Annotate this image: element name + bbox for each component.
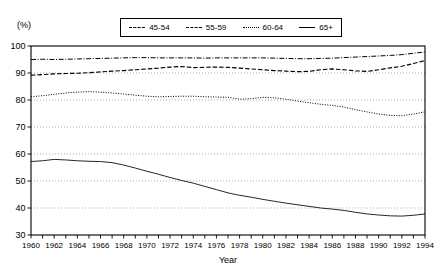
svg-text:1972: 1972 [161,241,179,250]
svg-text:1988: 1988 [347,241,365,250]
svg-text:60: 60 [15,149,25,159]
svg-text:1964: 1964 [68,241,86,250]
svg-text:40: 40 [15,203,25,213]
svg-text:90: 90 [15,68,25,78]
svg-text:1970: 1970 [138,241,156,250]
x-ticks-group: 1960196219641966196819701972197419761978… [22,235,434,250]
svg-text:1990: 1990 [370,241,388,250]
svg-text:30: 30 [15,230,25,240]
svg-text:1982: 1982 [277,241,295,250]
svg-text:1960: 1960 [22,241,40,250]
svg-text:1978: 1978 [231,241,249,250]
svg-text:50: 50 [15,176,25,186]
svg-text:1984: 1984 [300,241,318,250]
axes-frame [31,46,425,235]
svg-text:1980: 1980 [254,241,272,250]
y-ticks-group: 30405060708090100 [10,41,31,240]
svg-text:1968: 1968 [115,241,133,250]
chart-container: (%) 45-54 55-59 60-64 65+ 30405060708090… [0,0,442,278]
svg-text:1966: 1966 [92,241,110,250]
gridlines-group [31,73,425,208]
svg-text:1994: 1994 [416,241,434,250]
svg-text:1992: 1992 [393,241,411,250]
chart-svg: 30405060708090100 1960196219641966196819… [0,0,442,278]
svg-text:Year: Year [219,255,237,265]
svg-text:70: 70 [15,122,25,132]
svg-text:1976: 1976 [208,241,226,250]
x-axis-title-group: Year [219,255,237,265]
svg-text:80: 80 [15,95,25,105]
svg-text:1974: 1974 [184,241,202,250]
data-series-group [31,52,425,216]
plot-area: 30405060708090100 1960196219641966196819… [0,0,442,278]
svg-text:1986: 1986 [323,241,341,250]
svg-text:100: 100 [10,41,25,51]
svg-text:1962: 1962 [45,241,63,250]
